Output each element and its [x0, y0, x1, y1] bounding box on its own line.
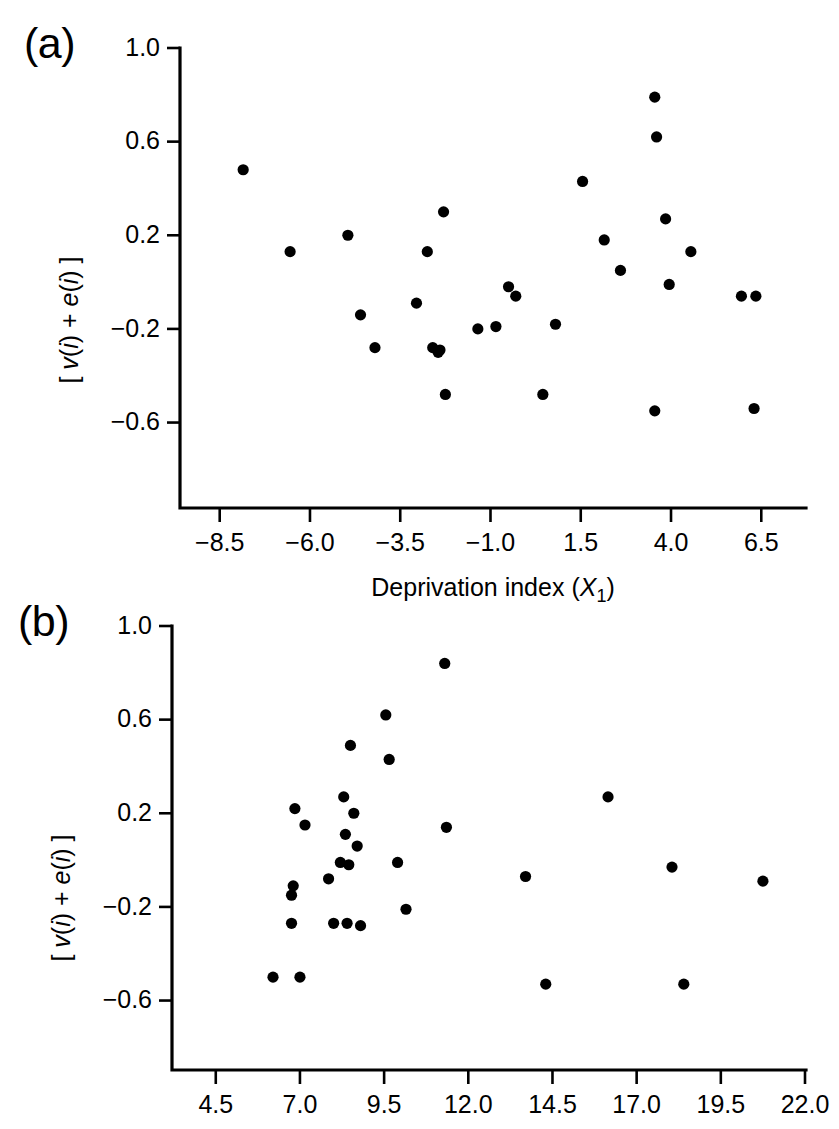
x-tick-label: 14.5 — [528, 1090, 577, 1118]
data-point — [342, 230, 353, 241]
y-tick-label: 0.2 — [117, 798, 152, 826]
y-axis-title-text: [ v(i) + e(i) ] — [55, 256, 83, 383]
y-axis-title: [ v(i) + e(i) ] — [47, 834, 75, 961]
data-point — [649, 405, 660, 416]
data-point — [748, 403, 759, 414]
y-axis-title-text: [ v(i) + e(i) ] — [47, 834, 75, 961]
data-point — [340, 829, 351, 840]
data-point — [750, 291, 761, 302]
axis-spine — [180, 48, 806, 508]
data-point — [343, 859, 354, 870]
data-point — [472, 323, 483, 334]
data-point — [649, 92, 660, 103]
data-point — [369, 342, 380, 353]
x-tick-label: 12.0 — [444, 1090, 493, 1118]
y-tick-label: −0.6 — [111, 407, 160, 435]
data-point — [550, 319, 561, 330]
data-point — [355, 309, 366, 320]
y-tick-label: −0.6 — [103, 985, 152, 1013]
data-point — [289, 803, 300, 814]
data-point — [537, 389, 548, 400]
x-tick-label: −8.5 — [195, 528, 244, 556]
y-tick-label: 0.6 — [117, 704, 152, 732]
data-point — [685, 246, 696, 257]
data-point — [285, 246, 296, 257]
data-point — [422, 246, 433, 257]
x-tick-label: −3.5 — [376, 528, 425, 556]
data-point — [380, 709, 391, 720]
data-point — [615, 265, 626, 276]
data-point — [602, 791, 613, 802]
x-tick-label: −1.0 — [466, 528, 515, 556]
y-tick-label: 1.0 — [117, 611, 152, 639]
data-point — [238, 164, 249, 175]
data-point — [411, 298, 422, 309]
data-point — [288, 880, 299, 891]
data-point — [352, 840, 363, 851]
data-point — [660, 213, 671, 224]
data-point — [577, 176, 588, 187]
x-tick-label: 19.5 — [696, 1090, 745, 1118]
figure-container: (a) 1.00.60.2−0.2−0.6−8.5−6.0−3.5−1.01.5… — [0, 0, 839, 1129]
data-point — [286, 918, 297, 929]
data-point — [384, 754, 395, 765]
y-tick-label: −0.2 — [111, 314, 160, 342]
data-point — [341, 918, 352, 929]
data-point — [400, 904, 411, 915]
data-point — [520, 871, 531, 882]
data-point — [666, 862, 677, 873]
data-point — [440, 389, 451, 400]
data-point — [439, 658, 450, 669]
x-tick-label: 1.5 — [563, 528, 598, 556]
data-point — [651, 131, 662, 142]
x-tick-label: 9.5 — [367, 1090, 402, 1118]
data-point — [441, 822, 452, 833]
data-point — [490, 321, 501, 332]
data-point — [438, 206, 449, 217]
data-point — [599, 234, 610, 245]
panel-b: (b) 1.00.60.2−0.2−0.64.57.09.512.014.517… — [0, 578, 839, 1129]
data-point — [757, 876, 768, 887]
data-point — [338, 791, 349, 802]
data-point — [355, 920, 366, 931]
x-tick-label: 4.5 — [198, 1090, 233, 1118]
data-point — [286, 890, 297, 901]
axis-spine — [172, 626, 806, 1070]
x-tick-label: 4.0 — [654, 528, 689, 556]
x-tick-label: 17.0 — [612, 1090, 661, 1118]
x-tick-label: 6.5 — [744, 528, 779, 556]
x-tick-label: −6.0 — [285, 528, 334, 556]
data-point — [540, 979, 551, 990]
data-point — [345, 740, 356, 751]
data-point — [294, 972, 305, 983]
data-point — [348, 808, 359, 819]
data-point — [392, 857, 403, 868]
data-point — [299, 819, 310, 830]
y-tick-label: 0.6 — [125, 126, 160, 154]
data-point — [510, 291, 521, 302]
x-tick-label: 22.0 — [781, 1090, 830, 1118]
data-point — [678, 979, 689, 990]
x-tick-label: 7.0 — [283, 1090, 318, 1118]
data-point — [434, 344, 445, 355]
data-point — [736, 291, 747, 302]
y-tick-label: −0.2 — [103, 892, 152, 920]
y-tick-label: 1.0 — [125, 33, 160, 61]
y-axis-title: [ v(i) + e(i) ] — [55, 256, 83, 383]
data-point — [503, 281, 514, 292]
data-point — [267, 972, 278, 983]
panel-b-plot: 1.00.60.2−0.2−0.64.57.09.512.014.517.019… — [0, 578, 839, 1129]
data-point — [323, 873, 334, 884]
data-point — [328, 918, 339, 929]
data-point — [664, 279, 675, 290]
panel-a-plot: 1.00.60.2−0.2−0.6−8.5−6.0−3.5−1.01.54.06… — [0, 0, 839, 610]
panel-a: (a) 1.00.60.2−0.2−0.6−8.5−6.0−3.5−1.01.5… — [0, 0, 839, 610]
y-tick-label: 0.2 — [125, 220, 160, 248]
